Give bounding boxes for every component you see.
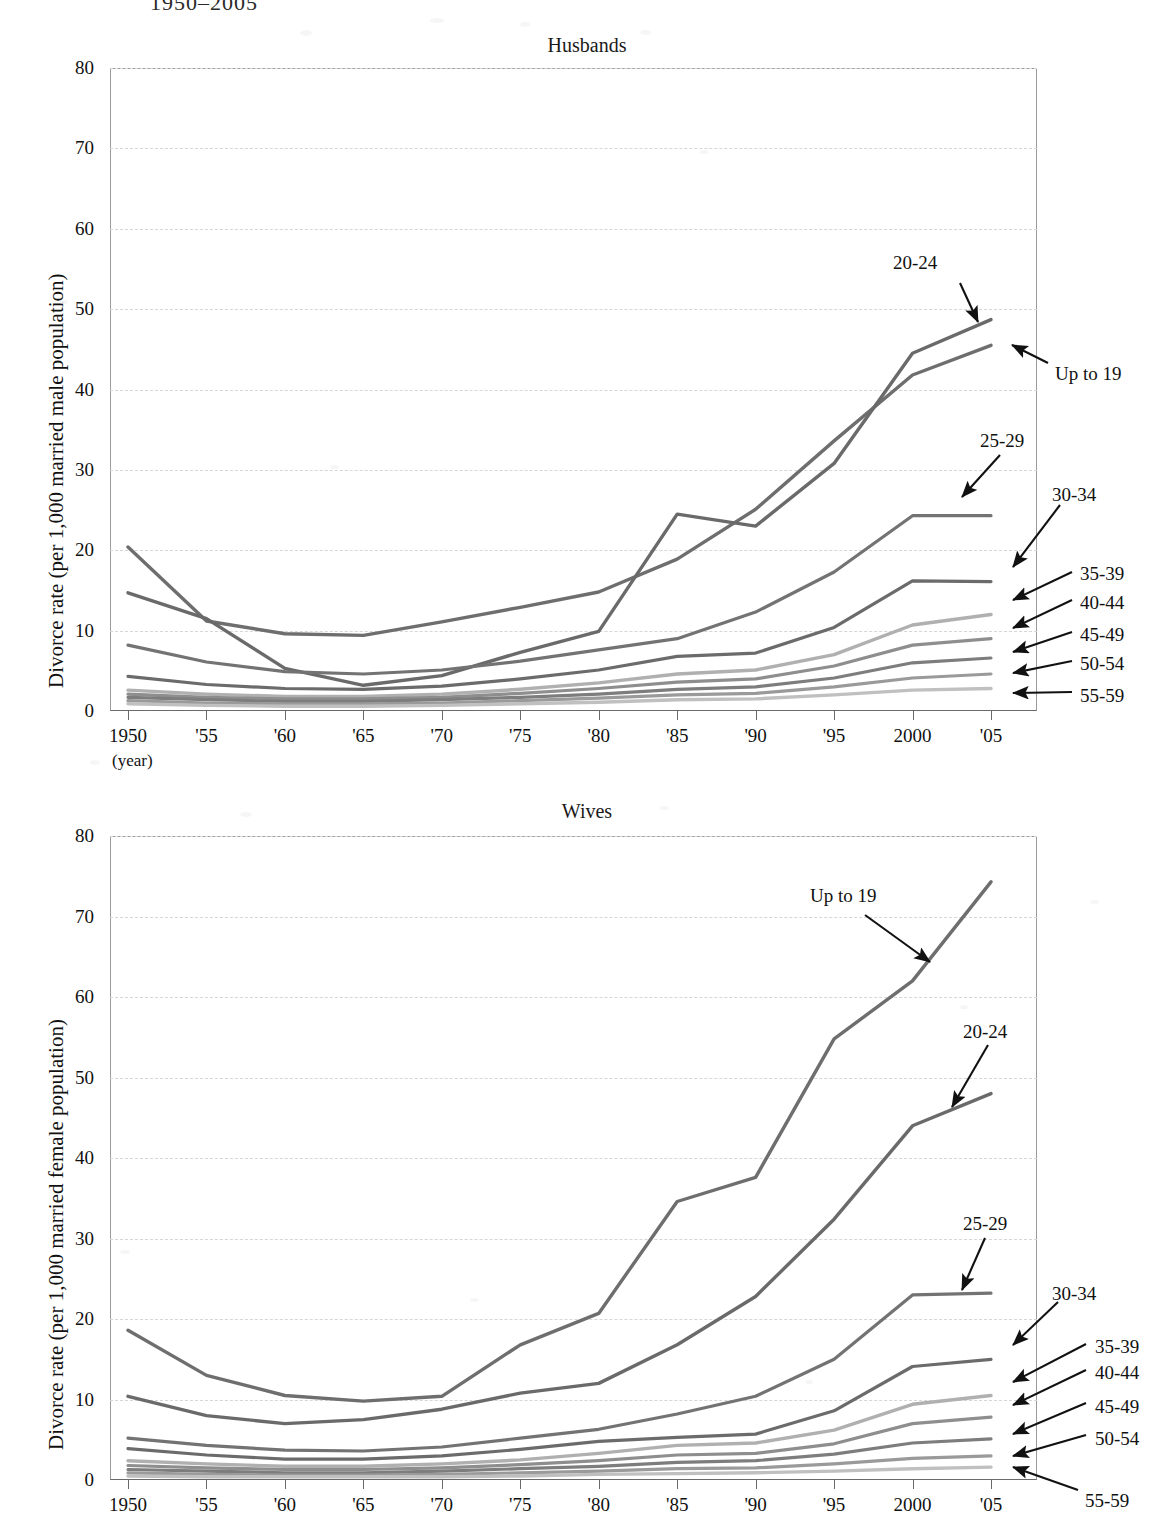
series-lines-wives — [110, 836, 1037, 1480]
annotation-label-35-39: 35-39 — [1095, 1336, 1139, 1358]
y-tick-label: 10 — [52, 620, 104, 642]
x-tick-mark — [834, 1480, 835, 1489]
plot-area-husbands — [110, 68, 1037, 711]
x-tick-mark — [991, 1480, 992, 1489]
x-tick-label: '90 — [744, 725, 766, 747]
series-line-30-34 — [128, 1359, 991, 1459]
paper-speck — [640, 30, 651, 35]
x-tick-mark — [677, 711, 678, 720]
x-tick-mark — [442, 711, 443, 720]
paper-speck — [300, 30, 312, 36]
y-tick-label: 70 — [52, 906, 104, 928]
x-tick-label: '75 — [509, 1494, 531, 1516]
x-tick-label: '65 — [352, 1494, 374, 1516]
y-tick-label: 20 — [52, 539, 104, 561]
annotation-label-50-54: 50-54 — [1095, 1428, 1139, 1450]
x-tick-mark — [442, 1480, 443, 1489]
annotation-label-55-59: 55-59 — [1080, 685, 1124, 707]
annotation-label-up-to-19: Up to 19 — [1055, 363, 1122, 385]
plot-area-wives — [110, 836, 1037, 1480]
annotation-label-30-34: 30-34 — [1052, 484, 1096, 506]
y-tick-label: 10 — [52, 1389, 104, 1411]
annotation-label-35-39: 35-39 — [1080, 563, 1124, 585]
series-line-20-24 — [128, 1094, 991, 1424]
x-tick-label: '55 — [195, 725, 217, 747]
x-tick-mark — [363, 1480, 364, 1489]
chart-panel-wives: Wives Divorce rate (per 1,000 married fe… — [0, 800, 1174, 1518]
x-tick-mark — [520, 711, 521, 720]
x-tick-label: '80 — [588, 725, 610, 747]
x-tick-mark — [206, 1480, 207, 1489]
x-tick-label: '85 — [666, 1494, 688, 1516]
x-tick-label: '90 — [744, 1494, 766, 1516]
y-tick-label: 80 — [52, 57, 104, 79]
x-tick-label: 1950 — [109, 725, 147, 747]
y-tick-label: 30 — [52, 459, 104, 481]
y-tick-label: 40 — [52, 379, 104, 401]
x-tick-mark — [756, 1480, 757, 1489]
x-tick-label: '75 — [509, 725, 531, 747]
annotation-label-30-34: 30-34 — [1052, 1283, 1096, 1305]
x-tick-mark — [520, 1480, 521, 1489]
series-line-up-to-19 — [128, 345, 991, 635]
paper-speck — [660, 806, 669, 810]
paper-speck — [60, 300, 68, 304]
y-tick-label: 50 — [52, 1067, 104, 1089]
paper-speck — [90, 760, 100, 765]
paper-speck — [240, 812, 252, 817]
paper-speck — [430, 18, 444, 23]
annotation-label-40-44: 40-44 — [1080, 592, 1124, 614]
series-line-35-39 — [128, 1396, 991, 1467]
x-tick-label: '05 — [980, 1494, 1002, 1516]
annotation-label-25-29: 25-29 — [980, 430, 1024, 452]
paper-speck — [700, 150, 708, 154]
paper-speck — [805, 1380, 813, 1384]
annotation-label-45-49: 45-49 — [1095, 1396, 1139, 1418]
series-line-up-to-19 — [128, 882, 991, 1401]
series-lines-husbands — [110, 68, 1037, 711]
chart-title-husbands: Husbands — [0, 34, 1174, 57]
series-line-25-29 — [128, 1293, 991, 1451]
x-tick-label: '80 — [588, 1494, 610, 1516]
annotation-label-25-29: 25-29 — [963, 1213, 1007, 1235]
paper-speck — [1090, 900, 1099, 904]
paper-speck — [520, 22, 530, 27]
y-tick-label: 0 — [52, 700, 104, 722]
y-tick-label: 0 — [52, 1469, 104, 1491]
annotation-label-up-to-19: Up to 19 — [810, 885, 877, 907]
annotation-label-20-24: 20-24 — [893, 252, 937, 274]
x-tick-mark — [677, 1480, 678, 1489]
x-axis-unit-note-husbands: (year) — [112, 751, 153, 771]
x-tick-mark — [285, 1480, 286, 1489]
x-tick-mark — [599, 1480, 600, 1489]
x-tick-mark — [913, 1480, 914, 1489]
x-tick-mark — [756, 711, 757, 720]
x-tick-label: '70 — [431, 1494, 453, 1516]
x-tick-mark — [991, 711, 992, 720]
y-tick-label: 60 — [52, 218, 104, 240]
x-tick-mark — [285, 711, 286, 720]
x-tick-mark — [834, 711, 835, 720]
paper-speck — [330, 465, 339, 469]
x-tick-mark — [206, 711, 207, 720]
x-tick-label: '05 — [980, 725, 1002, 747]
paper-speck — [120, 1250, 130, 1254]
x-tick-label: '85 — [666, 725, 688, 747]
y-tick-label: 60 — [52, 986, 104, 1008]
x-tick-label: '65 — [352, 725, 374, 747]
x-tick-label: 2000 — [894, 1494, 932, 1516]
annotation-label-20-24: 20-24 — [963, 1021, 1007, 1043]
annotation-label-45-49: 45-49 — [1080, 624, 1124, 646]
y-tick-label: 80 — [52, 825, 104, 847]
y-tick-label: 20 — [52, 1308, 104, 1330]
document-title: 1950–2005 — [150, 0, 258, 16]
x-tick-label: 2000 — [894, 725, 932, 747]
x-tick-mark — [128, 711, 129, 720]
x-tick-label: '95 — [823, 1494, 845, 1516]
paper-speck — [470, 1298, 479, 1302]
figure-page: 1950–2005 Husbands Divorce rate (per 1,0… — [0, 0, 1174, 1518]
x-tick-label: '55 — [195, 1494, 217, 1516]
x-tick-label: 1950 — [109, 1494, 147, 1516]
x-tick-mark — [363, 711, 364, 720]
x-tick-label: '60 — [274, 725, 296, 747]
